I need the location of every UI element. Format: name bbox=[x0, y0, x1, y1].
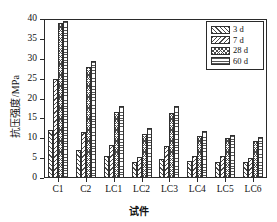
x-axis-tick-label-lc4: LC4 bbox=[189, 184, 206, 195]
y-axis-tick-label: 30 bbox=[28, 53, 38, 63]
y-axis-tick-label: 40 bbox=[28, 13, 38, 23]
bar-lc5-60d bbox=[230, 135, 235, 178]
x-axis-tick-label-c2: C2 bbox=[80, 184, 91, 195]
legend-item-3d: 3 d bbox=[211, 25, 260, 34]
y-axis-tick-mark bbox=[40, 99, 44, 100]
x-axis-tick-label-lc1: LC1 bbox=[105, 184, 122, 195]
x-axis-tick-label-lc6: LC6 bbox=[245, 184, 262, 195]
x-axis-tick-mark bbox=[142, 178, 143, 182]
x-axis-tick-label-c1: C1 bbox=[52, 184, 63, 195]
bar-c2-60d bbox=[91, 61, 96, 178]
y-axis-tick-mark bbox=[40, 178, 44, 179]
x-axis-tick-mark bbox=[225, 178, 226, 182]
bar-lc2-60d bbox=[147, 128, 152, 178]
bar-lc1-60d bbox=[119, 106, 124, 178]
compressive-strength-bar-chart: 抗压强度/MPa 0510152025303540 C1C2LC1LC2LC3L… bbox=[0, 0, 277, 222]
legend-item-28d: 28 d bbox=[211, 46, 260, 55]
legend-label-3d: 3 d bbox=[233, 25, 244, 34]
y-axis-tick-mark bbox=[40, 59, 44, 60]
legend-label-60d: 60 d bbox=[233, 57, 248, 66]
legend-item-7d: 7 d bbox=[211, 36, 260, 45]
y-axis-tick-mark bbox=[40, 118, 44, 119]
y-axis-tick-mark bbox=[40, 138, 44, 139]
y-axis-tick-mark bbox=[40, 79, 44, 80]
y-axis-tick-label: 15 bbox=[28, 112, 38, 122]
legend-label-7d: 7 d bbox=[233, 36, 244, 45]
y-axis-tick-mark bbox=[40, 19, 44, 20]
x-axis-tick-mark bbox=[169, 178, 170, 182]
legend-swatch-28d-icon bbox=[211, 47, 230, 55]
bar-lc4-60d bbox=[202, 131, 207, 178]
chart-legend: 3 d 7 d 28 d 60 d bbox=[206, 21, 264, 70]
x-axis-tick-mark bbox=[86, 178, 87, 182]
legend-swatch-7d-icon bbox=[211, 36, 230, 44]
bar-c1-60d bbox=[63, 21, 68, 178]
legend-swatch-3d-icon bbox=[211, 26, 230, 34]
x-axis-tick-label-lc2: LC2 bbox=[133, 184, 150, 195]
y-axis-tick-label: 20 bbox=[28, 93, 38, 103]
y-axis-tick-label: 25 bbox=[28, 73, 38, 83]
y-axis-tick-label: 5 bbox=[32, 152, 37, 162]
x-axis-tick-mark bbox=[114, 178, 115, 182]
y-axis-tick-label: 35 bbox=[28, 33, 38, 43]
x-axis-tick-label-lc3: LC3 bbox=[161, 184, 178, 195]
x-axis-tick-mark bbox=[197, 178, 198, 182]
legend-label-28d: 28 d bbox=[233, 46, 248, 55]
y-axis-tick-mark bbox=[40, 158, 44, 159]
y-axis-tick-mark bbox=[40, 39, 44, 40]
bar-lc6-60d bbox=[258, 137, 263, 178]
x-axis-tick-mark bbox=[253, 178, 254, 182]
x-axis-label: 试件 bbox=[0, 203, 277, 218]
x-axis-tick-mark bbox=[58, 178, 59, 182]
legend-swatch-60d-icon bbox=[211, 57, 230, 65]
y-axis-label: 抗压强度/MPa bbox=[7, 47, 22, 167]
x-axis-tick-label-lc5: LC5 bbox=[217, 184, 234, 195]
bar-lc3-60d bbox=[174, 106, 179, 178]
legend-item-60d: 60 d bbox=[211, 57, 260, 66]
y-axis-tick-label: 10 bbox=[28, 132, 38, 142]
y-axis-tick-label: 0 bbox=[32, 172, 37, 182]
